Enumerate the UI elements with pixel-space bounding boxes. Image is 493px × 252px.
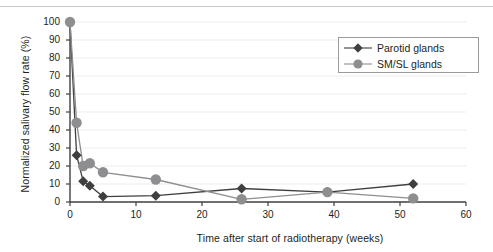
data-point-circle	[71, 118, 81, 128]
data-point-circle	[236, 194, 246, 204]
y-tick-label: 70	[34, 70, 60, 81]
y-tick-label: 100	[34, 16, 60, 27]
data-point-diamond	[151, 191, 161, 201]
x-axis-title: Time after start of radiotherapy (weeks)	[150, 232, 430, 244]
data-point-diamond	[237, 184, 247, 194]
y-tick-label: 80	[34, 52, 60, 63]
x-tick-label: 30	[255, 209, 281, 220]
legend-label-smsl: SM/SL glands	[377, 58, 442, 70]
figure-panel: Normalized salivary flow rate (%) Time a…	[0, 0, 493, 252]
y-tick-label: 90	[34, 34, 60, 45]
data-point-circle	[85, 158, 95, 168]
legend-item-smsl: SM/SL glands	[343, 56, 442, 72]
legend-item-parotid: Parotid glands	[343, 40, 444, 56]
y-tick-label: 40	[34, 124, 60, 135]
x-tick-label: 0	[57, 209, 83, 220]
legend-label-parotid: Parotid glands	[377, 42, 444, 54]
y-tick-label: 50	[34, 106, 60, 117]
y-axis-title: Normalized salivary flow rate (%)	[19, 29, 31, 199]
y-tick-label: 20	[34, 160, 60, 171]
y-tick-label: 10	[34, 178, 60, 189]
data-point-circle	[98, 167, 108, 177]
line-chart: Normalized salivary flow rate (%) Time a…	[0, 0, 493, 252]
y-tick-label: 0	[34, 196, 60, 207]
data-point-circle	[408, 193, 418, 203]
data-point-diamond	[408, 179, 418, 189]
bottom-text-fragment	[2, 243, 192, 250]
y-tick-label: 30	[34, 142, 60, 153]
data-point-circle	[322, 187, 332, 197]
x-tick-label: 40	[321, 209, 347, 220]
circle-marker	[343, 57, 373, 71]
chart-legend: Parotid glands SM/SL glands	[338, 37, 479, 73]
x-tick-label: 10	[123, 209, 149, 220]
x-tick-label: 50	[387, 209, 413, 220]
x-tick-label: 60	[453, 209, 479, 220]
data-point-circle	[151, 174, 161, 184]
y-tick-label: 60	[34, 88, 60, 99]
diamond-marker	[343, 41, 373, 55]
x-tick-label: 20	[189, 209, 215, 220]
data-point-circle	[65, 17, 75, 27]
data-point-diamond	[72, 150, 82, 160]
